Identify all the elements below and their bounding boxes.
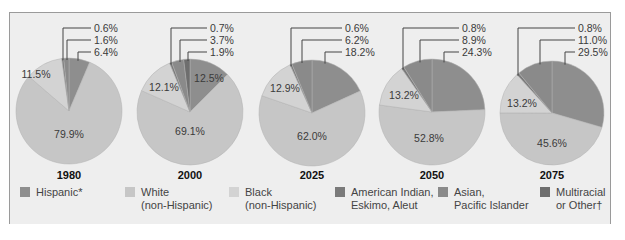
leader-label: 24.3% bbox=[462, 46, 492, 58]
slice-label: 12.5% bbox=[194, 72, 224, 84]
swatch-american-indian-icon bbox=[335, 187, 345, 197]
pie-2025: 0.6%6.2%18.2%12.9%62.0%2025 bbox=[259, 22, 375, 181]
legend-item-american-indian: American Indian, Eskimo, Aleut bbox=[335, 186, 434, 211]
swatch-multiracial-icon bbox=[540, 187, 550, 197]
slice-label: 13.2% bbox=[507, 97, 537, 109]
year-label: 2075 bbox=[540, 169, 564, 181]
leader-label: 11.0% bbox=[578, 34, 607, 46]
year-label: 1980 bbox=[57, 169, 81, 181]
leader-label: 1.9% bbox=[210, 46, 234, 58]
legend-label: Asian, Pacific Islander bbox=[454, 186, 529, 211]
leader-label: 6.4% bbox=[94, 46, 118, 58]
pie-2075: 0.8%11.0%29.5%13.2%45.6%2075 bbox=[500, 22, 608, 181]
legend-item-multiracial: Multiracial or Other† bbox=[540, 186, 606, 211]
pie-2050: 0.8%8.9%24.3%13.2%52.8%2050 bbox=[379, 22, 492, 181]
leader-label: 18.2% bbox=[345, 46, 375, 58]
leader-line bbox=[325, 52, 342, 64]
slice-label: 13.2% bbox=[389, 89, 419, 101]
legend-label: Hispanic* bbox=[36, 186, 82, 199]
legend-label: White (non-Hispanic) bbox=[141, 186, 213, 211]
slice-label: 12.1% bbox=[149, 81, 179, 93]
legend-item-white: White (non-Hispanic) bbox=[125, 186, 213, 211]
legend-item-asian: Asian, Pacific Islander bbox=[438, 186, 529, 211]
legend-label: Multiracial or Other† bbox=[556, 186, 606, 211]
legend-item-hispanic: Hispanic* bbox=[20, 186, 82, 199]
pie-1980: 0.6%1.6%6.4%11.5%79.9%1980 bbox=[16, 22, 122, 181]
legend-label: Black (non-Hispanic) bbox=[245, 186, 317, 211]
leader-label: 1.6% bbox=[94, 34, 118, 46]
slice-label: 52.8% bbox=[414, 132, 444, 144]
slice-label: 79.9% bbox=[54, 128, 84, 140]
leader-label: 0.7% bbox=[210, 22, 234, 34]
slice-label: 69.1% bbox=[175, 125, 205, 137]
leader-label: 29.5% bbox=[578, 46, 608, 58]
year-label: 2000 bbox=[178, 169, 202, 181]
swatch-asian-icon bbox=[438, 187, 448, 197]
leader-label: 6.2% bbox=[345, 34, 369, 46]
pie-2000: 0.7%3.7%1.9%12.5%12.1%69.1%2000 bbox=[137, 22, 243, 181]
slice-label: 62.0% bbox=[297, 130, 327, 142]
leader-line bbox=[420, 40, 459, 62]
legend-item-black: Black (non-Hispanic) bbox=[229, 186, 317, 211]
leader-label: 8.9% bbox=[462, 34, 486, 46]
legend-label: American Indian, Eskimo, Aleut bbox=[351, 186, 434, 211]
leader-label: 0.8% bbox=[462, 22, 486, 34]
leader-label: 0.6% bbox=[94, 22, 118, 34]
leader-line bbox=[180, 40, 207, 62]
leader-line bbox=[67, 40, 91, 60]
swatch-black-icon bbox=[229, 187, 239, 197]
wedge-hispanic bbox=[432, 59, 485, 112]
leader-label: 0.8% bbox=[578, 22, 602, 34]
slice-label: 11.5% bbox=[22, 68, 51, 80]
leader-label: 3.7% bbox=[210, 34, 234, 46]
swatch-white-icon bbox=[125, 187, 135, 197]
year-label: 2025 bbox=[300, 169, 324, 181]
swatch-hispanic-icon bbox=[20, 187, 30, 197]
slice-label: 45.6% bbox=[537, 137, 567, 149]
leader-label: 0.6% bbox=[345, 22, 369, 34]
slice-label: 12.9% bbox=[270, 82, 300, 94]
year-label: 2050 bbox=[420, 169, 444, 181]
